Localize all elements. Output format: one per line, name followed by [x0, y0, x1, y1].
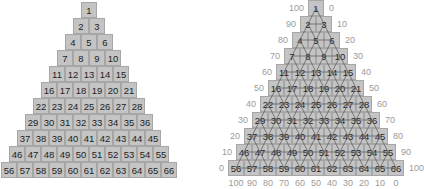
pyramid-cell: 42: [324, 128, 340, 144]
pyramid-cell: 10: [105, 50, 121, 66]
right-scale-label: 80: [393, 131, 403, 142]
pyramid-cell: 8: [73, 50, 89, 66]
pyramid-cell: 5: [308, 32, 324, 48]
pyramid-cell: 53: [121, 146, 137, 162]
pyramid-cell: 1: [81, 2, 97, 18]
pyramid-cell: 40: [65, 130, 81, 146]
pyramid-cell: 39: [276, 128, 292, 144]
pyramid-cell: 16: [41, 82, 57, 98]
pyramid-cell: 21: [121, 82, 137, 98]
pyramid-cell: 37: [17, 130, 33, 146]
pyramid-cell: 31: [284, 112, 300, 128]
pyramid-cell: 43: [113, 130, 129, 146]
right-scale-label: 100: [409, 163, 424, 174]
pyramid-cell: 51: [316, 144, 332, 160]
pyramid-cell: 64: [129, 162, 145, 178]
pyramid-cell: 18: [73, 82, 89, 98]
right-scale-label: 50: [369, 83, 379, 94]
pyramid-cell: 33: [89, 114, 105, 130]
pyramid-cell: 15: [340, 64, 356, 80]
pyramid-cell: 46: [9, 146, 25, 162]
pyramid-cell: 24: [65, 98, 81, 114]
pyramid-cell: 22: [33, 98, 49, 114]
pyramid-cell: 60: [65, 162, 81, 178]
pyramid-cell: 8: [300, 48, 316, 64]
pyramid-cell: 36: [364, 112, 380, 128]
pyramid-cell: 61: [81, 162, 97, 178]
pyramid-cell: 23: [276, 96, 292, 112]
pyramid-cell: 54: [137, 146, 153, 162]
pyramid-cell: 46: [236, 144, 252, 160]
pyramid-cell: 21: [348, 80, 364, 96]
pyramid-cell: 37: [244, 128, 260, 144]
pyramid-cell: 63: [113, 162, 129, 178]
left-scale-label: 60: [252, 67, 272, 78]
pyramid-cell: 32: [73, 114, 89, 130]
left-scale-label: 30: [228, 115, 248, 126]
pyramid-cell: 41: [81, 130, 97, 146]
pyramid-cell: 6: [324, 32, 340, 48]
left-scale-label: 50: [244, 83, 264, 94]
pyramid-cell: 55: [153, 146, 169, 162]
pyramid-cell: 59: [49, 162, 65, 178]
pyramid-cell: 27: [340, 96, 356, 112]
pyramid-cell: 34: [332, 112, 348, 128]
left-scale-label: 70: [260, 51, 280, 62]
pyramid-cell: 26: [324, 96, 340, 112]
pyramid-cell: 5: [81, 34, 97, 50]
pyramid-cell: 55: [380, 144, 396, 160]
pyramid-cell: 56: [228, 160, 244, 176]
pyramid-cell: 2: [73, 18, 89, 34]
right-scale-label: 90: [401, 147, 411, 158]
pyramid-cell: 41: [308, 128, 324, 144]
pyramid-cell: 35: [121, 114, 137, 130]
right-scale-label: 70: [385, 115, 395, 126]
pyramid-cell: 35: [348, 112, 364, 128]
pyramid-cell: 42: [97, 130, 113, 146]
pyramid-cell: 20: [332, 80, 348, 96]
pyramid-cell: 56: [1, 162, 17, 178]
pyramid-cell: 58: [260, 160, 276, 176]
pyramid-cell: 54: [364, 144, 380, 160]
pyramid-cell: 12: [65, 66, 81, 82]
pyramid-cell: 25: [81, 98, 97, 114]
pyramid-cell: 23: [49, 98, 65, 114]
pyramid-cell: 66: [388, 160, 404, 176]
pyramid-cell: 17: [284, 80, 300, 96]
pyramid-cell: 11: [276, 64, 292, 80]
pyramid-cell: 40: [292, 128, 308, 144]
pyramid-cell: 65: [372, 160, 388, 176]
pyramid-cell: 38: [33, 130, 49, 146]
pyramid-cell: 29: [25, 114, 41, 130]
right-scale-label: 60: [377, 99, 387, 110]
pyramid-cell: 49: [57, 146, 73, 162]
pyramid-cell: 61: [308, 160, 324, 176]
pyramid-cell: 34: [105, 114, 121, 130]
pyramid-cell: 64: [356, 160, 372, 176]
pyramid-cell: 58: [33, 162, 49, 178]
pyramid-cell: 14: [324, 64, 340, 80]
pyramid-cell: 62: [97, 162, 113, 178]
pyramid-cell: 13: [81, 66, 97, 82]
pyramid-cell: 48: [41, 146, 57, 162]
pyramid-cell: 4: [65, 34, 81, 50]
pyramid-cell: 27: [113, 98, 129, 114]
pyramid-cell: 66: [161, 162, 177, 178]
pyramid-cell: 11: [49, 66, 65, 82]
pyramid-cell: 3: [316, 16, 332, 32]
pyramid-cell: 13: [308, 64, 324, 80]
pyramid-cell: 20: [105, 82, 121, 98]
pyramid-cell: 52: [332, 144, 348, 160]
pyramid-cell: 60: [292, 160, 308, 176]
left-scale-label: 80: [268, 35, 288, 46]
pyramid-cell: 57: [17, 162, 33, 178]
pyramid-cell: 1: [308, 0, 324, 16]
pyramid-cell: 30: [268, 112, 284, 128]
left-scale-label: 20: [220, 131, 240, 142]
pyramid-cell: 47: [25, 146, 41, 162]
right-scale-label: 30: [353, 51, 363, 62]
pyramid-cell: 65: [145, 162, 161, 178]
pyramid-cell: 10: [332, 48, 348, 64]
pyramid-cell: 49: [284, 144, 300, 160]
pyramid-cell: 7: [57, 50, 73, 66]
